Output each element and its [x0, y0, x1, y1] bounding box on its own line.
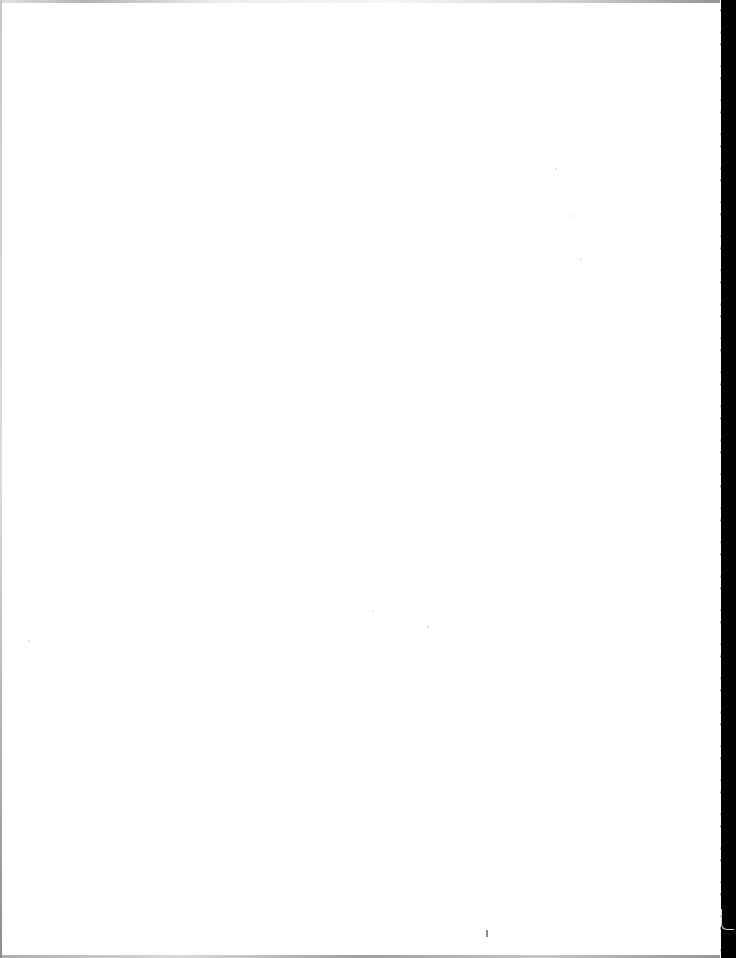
- dust-speck: [372, 610, 374, 612]
- scanner-bed-black-strip: [721, 0, 736, 958]
- dust-speck: [28, 640, 30, 642]
- dust-speck: [572, 215, 574, 217]
- faint-page-mark: [486, 930, 488, 937]
- dust-speck: [555, 168, 557, 170]
- blank-paper-sheet: [0, 0, 723, 958]
- dust-speck: [580, 258, 582, 260]
- top-paper-edge-shadow: [0, 0, 723, 3]
- left-paper-edge: [0, 0, 2, 958]
- scanned-page: [0, 0, 736, 958]
- paper-corner-curl: [721, 909, 734, 930]
- dust-speck: [427, 626, 429, 628]
